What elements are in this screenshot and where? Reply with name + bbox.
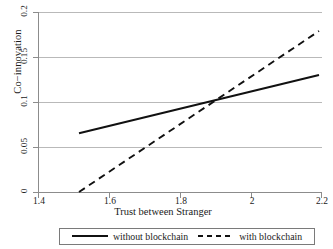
x-tick-label-1.8: 1.8 — [166, 196, 196, 206]
gridlines — [38, 13, 322, 148]
series-line-with-blockchain — [79, 31, 319, 192]
legend-swatch-dashed-line-icon — [198, 232, 234, 240]
y-axis-ticks — [33, 13, 38, 193]
x-axis-title: Trust between Stranger — [0, 206, 326, 217]
chart-legend: without blockchain with blockchain — [59, 228, 315, 245]
legend-entry-without-blockchain[interactable]: without blockchain — [72, 232, 188, 242]
legend-label-with-blockchain: with blockchain — [239, 232, 302, 242]
legend-label-without-blockchain: without blockchain — [113, 232, 188, 242]
x-tick-label-2: 2 — [237, 196, 267, 206]
legend-entry-with-blockchain[interactable]: with blockchain — [198, 232, 302, 242]
x-tick-label-1.4: 1.4 — [24, 196, 54, 206]
x-tick-label-1.6: 1.6 — [95, 196, 125, 206]
series-line-without-blockchain — [79, 75, 319, 133]
x-tick-label-2.2: 2.2 — [307, 196, 333, 206]
legend-swatch-solid-line-icon — [72, 232, 108, 240]
